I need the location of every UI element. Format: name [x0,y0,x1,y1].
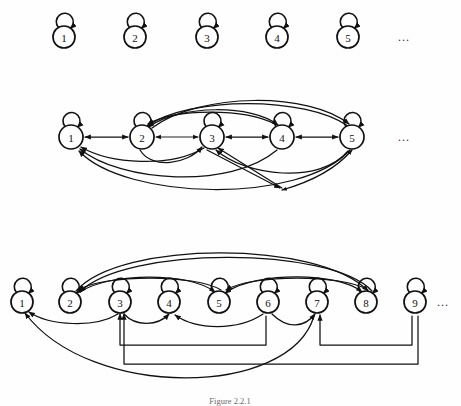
edge-9-to-3-routed-low [124,314,418,364]
row3-ellipsis: ... [437,295,449,309]
edge-6-to-4-below [175,314,263,327]
edge-5-to-1-below-tall [79,150,350,190]
node-label: 5 [345,32,351,44]
graph-row-2: 1 2 3 4 5 ... [59,100,410,190]
row3-node-9[interactable]: 9 [404,291,426,313]
row2-node-5[interactable]: 5 [340,125,364,149]
row2-node-2[interactable]: 2 [130,125,154,149]
row3-node-7[interactable]: 7 [306,291,328,313]
row2-node-3[interactable]: 3 [200,125,224,149]
node-label: 4 [166,297,172,309]
row3-node-6[interactable]: 6 [257,291,279,313]
row1-node-3[interactable]: 3 [196,26,218,48]
node-label: 2 [139,132,145,144]
node-label: 7 [314,297,320,309]
node-label: 8 [363,297,369,309]
edge-6-to-3-routed [120,314,266,345]
row1-node-1[interactable]: 1 [53,26,75,48]
edge-2-to-3-below [140,147,202,163]
row3-node-5[interactable]: 5 [208,291,230,313]
node-label: 4 [274,32,280,44]
row3-node-1[interactable]: 1 [11,291,33,313]
node-label: 5 [349,132,355,144]
edge-6-to-7-below [272,314,315,325]
node-label: 2 [132,32,138,44]
row1-node-2[interactable]: 2 [124,26,146,48]
node-label: 1 [61,32,67,44]
row3-node-4[interactable]: 4 [158,291,180,313]
node-label: 2 [67,297,73,309]
node-label: 1 [19,297,25,309]
edge-2-to-8-above-tall [76,253,368,291]
row2-ellipsis: ... [398,130,410,144]
node-label: 5 [216,297,222,309]
edge-2-to-5-above [80,277,215,292]
node-label: 3 [209,132,215,144]
node-label: 4 [279,132,285,144]
graph-row-3: 1 2 3 4 5 6 7 [11,253,449,378]
edge-8-to-2-above-tall [80,257,372,292]
row2-node-4[interactable]: 4 [270,125,294,149]
row3-node-3[interactable]: 3 [109,291,131,313]
row1-ellipsis: ... [398,30,410,44]
figure-caption: Figure 2.2.1 [209,396,250,406]
row3-node-2[interactable]: 2 [59,291,81,313]
node-label: 3 [117,297,123,309]
row1-node-5[interactable]: 5 [337,26,359,48]
node-label: 3 [204,32,210,44]
edge-5-to-8-above [228,277,362,292]
graph-row-1: 1 2 3 4 5 ... [53,13,410,48]
row1-node-4[interactable]: 4 [266,26,288,48]
figure-page: 1 2 3 4 5 ... [0,0,461,406]
edge-4-to-1-below [80,149,277,177]
row3-node-8[interactable]: 8 [355,291,377,313]
node-label: 1 [68,132,74,144]
edge-9-to-7-routed [320,315,412,345]
edge-3-to-4-below [124,314,169,323]
edge-3-to-1-below [29,312,118,324]
node-label: 6 [265,297,271,309]
row2-node-1[interactable]: 1 [59,125,83,149]
directed-graph-figure: 1 2 3 4 5 ... [0,0,461,406]
node-label: 9 [412,297,418,309]
